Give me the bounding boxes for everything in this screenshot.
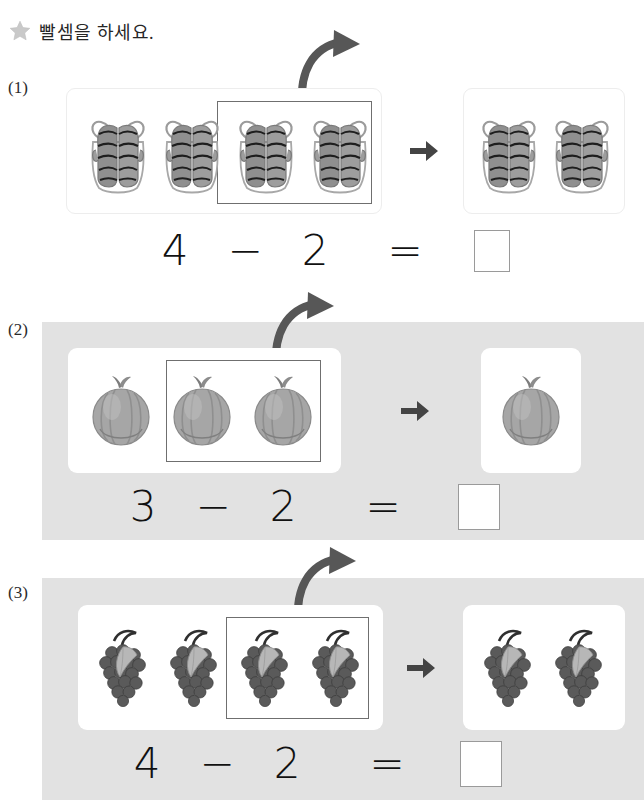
minuend-1: 4	[140, 230, 210, 272]
arrow-right-icon	[409, 138, 439, 164]
minus-operator-1: −	[210, 230, 280, 272]
minuend-3: 4	[112, 743, 182, 785]
subtrahend-1: 2	[280, 230, 350, 272]
problem-label-2: (2)	[8, 320, 28, 340]
list-item	[544, 619, 615, 717]
result-card-3	[463, 605, 625, 730]
answer-box-2[interactable]	[458, 484, 500, 530]
list-item	[155, 103, 229, 201]
list-item	[491, 364, 571, 458]
minus-operator-3: −	[182, 743, 252, 785]
problem-row-3: (3)	[0, 545, 644, 803]
list-item	[242, 364, 323, 458]
problem-label-1: (1)	[8, 78, 28, 98]
subtrahend-3: 2	[252, 743, 322, 785]
subtrahend-2: 2	[248, 486, 318, 528]
equals-sign-1: =	[350, 230, 460, 272]
list-item	[81, 103, 155, 201]
list-item	[472, 103, 545, 201]
list-item	[161, 364, 242, 458]
equation-3: 4 − 2 =	[112, 737, 582, 791]
problem-row-1: (1)	[0, 0, 644, 290]
list-item	[88, 619, 159, 717]
equals-sign-3: =	[322, 743, 452, 785]
list-item	[545, 103, 618, 201]
problem-row-2: (2)	[0, 290, 644, 545]
list-item	[473, 619, 544, 717]
source-card-1	[66, 88, 382, 214]
result-card-2	[481, 348, 581, 473]
list-item	[303, 103, 377, 201]
list-item	[80, 364, 161, 458]
answer-box-3[interactable]	[460, 741, 502, 787]
arrow-right-icon	[406, 655, 436, 681]
list-item	[230, 619, 301, 717]
list-item	[159, 619, 230, 717]
answer-box-1[interactable]	[474, 230, 510, 272]
equals-sign-2: =	[318, 486, 448, 528]
source-card-2	[68, 348, 341, 473]
list-item	[229, 103, 303, 201]
arrow-right-icon	[400, 398, 430, 424]
problem-label-3: (3)	[8, 583, 28, 603]
minuend-2: 3	[108, 486, 178, 528]
minus-operator-2: −	[178, 486, 248, 528]
source-card-3	[78, 605, 383, 730]
equation-2: 3 − 2 =	[108, 480, 578, 534]
list-item	[301, 619, 372, 717]
equation-1: 4 − 2 =	[140, 224, 580, 278]
result-card-1	[463, 88, 625, 214]
